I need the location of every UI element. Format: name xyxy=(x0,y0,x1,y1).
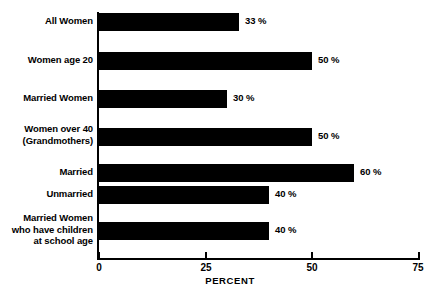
y-axis-line xyxy=(97,12,99,258)
bar-value-label: 33 % xyxy=(245,15,266,26)
bar-value-label: 50 % xyxy=(318,130,339,141)
x-tick xyxy=(98,252,100,259)
x-tick-label: 25 xyxy=(200,262,211,273)
x-tick xyxy=(418,252,420,259)
bar-chart: All Women 33 % Women age 20 50 % Married… xyxy=(0,0,440,294)
bar-value-label: 50 % xyxy=(318,54,339,65)
bar-value-label: 40 % xyxy=(275,188,296,199)
bar-married[interactable] xyxy=(99,164,354,182)
category-label: Married Women xyxy=(23,92,99,104)
bar-value-label: 40 % xyxy=(275,224,296,235)
category-label: Married xyxy=(59,166,99,178)
category-label: Unmarried xyxy=(46,188,99,200)
bar-married-women[interactable] xyxy=(99,90,227,108)
x-tick-label: 0 xyxy=(96,262,102,273)
x-tick xyxy=(311,252,313,259)
category-label: Married Women who have children at schoo… xyxy=(12,212,99,247)
x-axis-line xyxy=(97,258,420,260)
category-label: Women age 20 xyxy=(28,54,99,66)
bar-married-women-with-school-age-children[interactable] xyxy=(99,222,269,240)
bar-all-women[interactable] xyxy=(99,13,239,31)
plot-area: All Women 33 % Women age 20 50 % Married… xyxy=(0,0,440,294)
x-axis-title: PERCENT xyxy=(205,275,255,286)
category-label: Women over 40 (Grandmothers) xyxy=(23,123,99,146)
bar-value-label: 30 % xyxy=(233,92,254,103)
bar-women-age-20[interactable] xyxy=(99,52,312,70)
bar-women-over-40[interactable] xyxy=(99,128,312,146)
x-tick-label: 50 xyxy=(306,262,317,273)
category-label: All Women xyxy=(45,15,99,27)
bar-value-label: 60 % xyxy=(360,166,381,177)
x-tick xyxy=(205,252,207,259)
x-tick-label: 75 xyxy=(412,262,423,273)
bar-unmarried[interactable] xyxy=(99,186,269,204)
